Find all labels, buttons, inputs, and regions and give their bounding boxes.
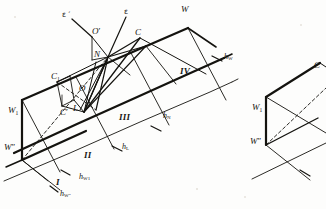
ray-epsilon-prime bbox=[72, 19, 92, 37]
band-sep-3 bbox=[188, 28, 226, 100]
r-ridge-upper bbox=[266, 63, 320, 97]
band-label-II: II bbox=[84, 150, 92, 160]
label-N: N bbox=[94, 50, 100, 59]
scan-speck bbox=[14, 16, 16, 18]
scan-speck bbox=[244, 196, 246, 198]
r-label-C: C bbox=[314, 61, 320, 70]
r-ridge-ext bbox=[320, 63, 326, 67]
label-epsilon-prime: ε ′ bbox=[62, 10, 70, 19]
diagram-svg bbox=[0, 0, 326, 209]
label-h-N: hN bbox=[163, 112, 171, 120]
label-L: L bbox=[73, 104, 78, 113]
figure-canvas: W W1 W″ C C1 C′ O O′ N L ε ′ ε I II III … bbox=[0, 0, 326, 209]
label-h-L: hL bbox=[122, 143, 129, 151]
label-C-prime: C′ bbox=[60, 108, 68, 117]
r-fold-lower bbox=[266, 118, 318, 145]
label-O-prime: O′ bbox=[92, 27, 100, 36]
label-h-W1: hW1 bbox=[79, 173, 90, 181]
fold-front-top bbox=[14, 58, 224, 153]
label-epsilon: ε bbox=[124, 7, 128, 16]
baseline-lower-ext bbox=[232, 79, 238, 82]
label-O: O bbox=[79, 84, 86, 93]
band-label-III: III bbox=[119, 112, 130, 122]
r-baseline-lower bbox=[252, 143, 326, 179]
scan-speck bbox=[196, 188, 198, 190]
r-band-sep-0 bbox=[266, 97, 326, 133]
label-h-W: hW bbox=[224, 53, 233, 61]
edge-Wdp-down bbox=[22, 160, 48, 181]
band-label-I: I bbox=[56, 177, 60, 187]
seg-C1-down bbox=[57, 82, 62, 106]
label-h-W-double-prime: hW″ bbox=[60, 190, 71, 198]
edge-lower-left-tail bbox=[6, 160, 22, 167]
line-Cr-down bbox=[146, 46, 176, 84]
label-W-double-prime: W″ bbox=[4, 143, 15, 152]
tick-hW1 bbox=[61, 170, 70, 175]
r-diag-down bbox=[266, 145, 310, 180]
band-sep-0 bbox=[22, 100, 60, 172]
band-label-IV: IV bbox=[180, 66, 190, 76]
label-W: W bbox=[181, 5, 189, 14]
scan-speck bbox=[300, 24, 302, 26]
seg-C1-right-down bbox=[70, 76, 74, 100]
tick-hN bbox=[151, 126, 161, 131]
label-C1: C1 bbox=[51, 72, 60, 81]
label-C: C bbox=[135, 28, 141, 37]
r-label-W-double-prime: W″ bbox=[250, 137, 261, 146]
r-dash-diag bbox=[266, 88, 326, 145]
label-W1: W1 bbox=[8, 106, 18, 115]
r-label-W1: W1 bbox=[252, 103, 262, 112]
ridge-W-apex-right bbox=[188, 28, 216, 47]
ray-N-to-C1 bbox=[57, 57, 108, 82]
